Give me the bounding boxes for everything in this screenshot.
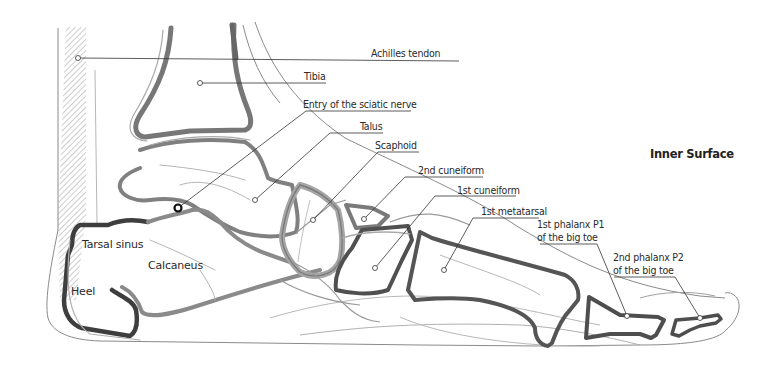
label-sciatic-nerve-entry: Entry of the sciatic nerve [303, 98, 417, 110]
diagram-title: Inner Surface [650, 147, 734, 161]
phalanx-2-bone [672, 315, 721, 336]
leader-scaphoid [313, 152, 419, 220]
leader-lines [76, 56, 703, 321]
cuneiform-1-bone [336, 226, 412, 293]
cuneiform-2-bone [346, 205, 388, 228]
label-tarsal-sinus: Tarsal sinus [82, 238, 143, 251]
label-1st-phalanx-line1: 1st phalanx P1 [537, 218, 604, 231]
leader-phalanx2 [614, 277, 700, 318]
label-talus: Talus [360, 120, 382, 132]
label-1st-metatarsal: 1st metatarsal [481, 205, 547, 217]
label-scaphoid: Scaphoid [375, 139, 417, 151]
label-1st-phalanx: 1st phalanx P1 of the big toe [537, 218, 604, 244]
label-2nd-phalanx: 2nd phalanx P2 of the big toe [613, 251, 684, 277]
label-achilles-tendon: Achilles tendon [371, 47, 440, 59]
label-1st-phalanx-line2: of the big toe [537, 231, 604, 244]
achilles-tendon-shape [58, 27, 86, 300]
skin-outline [47, 22, 739, 346]
label-tibia: Tibia [304, 70, 325, 82]
label-heel: Heel [71, 285, 95, 298]
label-calcaneus: Calcaneus [148, 259, 203, 272]
foot-anatomy-diagram: Achilles tendon Tibia Entry of the sciat… [0, 0, 763, 376]
label-2nd-phalanx-line2: of the big toe [613, 264, 684, 277]
label-2nd-phalanx-line1: 2nd phalanx P2 [613, 251, 684, 264]
label-1st-cuneiform: 1st cuneiform [457, 184, 520, 196]
midfoot-overlap-bones [280, 200, 470, 322]
label-2nd-cuneiform: 2nd cuneiform [418, 164, 484, 176]
